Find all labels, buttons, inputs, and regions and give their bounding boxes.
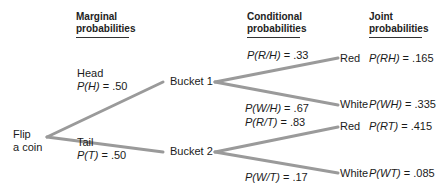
tail-probability: P(T) = .50 bbox=[77, 149, 126, 162]
branch-b2-red bbox=[215, 127, 338, 152]
root-label-line1: Flip bbox=[13, 128, 42, 141]
joint-prob-rh: P(RH) = .165 bbox=[369, 52, 434, 65]
header-marginal-line1: Marginal bbox=[76, 11, 135, 23]
head-label: Head bbox=[77, 67, 103, 80]
header-joint: Joint probabilities bbox=[369, 11, 428, 35]
branch-b2-white bbox=[215, 152, 338, 173]
header-joint-underline bbox=[369, 37, 422, 38]
root-label-line2: a coin bbox=[13, 141, 42, 154]
tail-prob-expr: P(T) bbox=[77, 149, 98, 161]
joint-rh-expr: P(RH) bbox=[369, 52, 400, 64]
header-marginal-underline bbox=[76, 37, 129, 38]
header-joint-line2: probabilities bbox=[369, 23, 428, 35]
cond-w-h-expr: P(W/H) bbox=[245, 102, 281, 114]
joint-wt-value: .085 bbox=[413, 167, 434, 179]
header-marginal: Marginal probabilities bbox=[76, 11, 135, 35]
bucket-2-node: Bucket 2 bbox=[170, 145, 213, 158]
header-joint-line1: Joint bbox=[369, 11, 428, 23]
joint-prob-rt: P(RT) = .415 bbox=[369, 120, 432, 133]
joint-wh-value: .335 bbox=[415, 98, 436, 110]
header-conditional-line1: Conditional bbox=[247, 11, 306, 23]
header-marginal-line2: probabilities bbox=[76, 23, 135, 35]
bucket-1-node: Bucket 1 bbox=[170, 75, 213, 88]
joint-wh-expr: P(WH) bbox=[369, 98, 402, 110]
tail-prob-value: .50 bbox=[111, 149, 126, 161]
cond-w-t-value: .17 bbox=[292, 171, 307, 183]
joint-rt-expr: P(RT) bbox=[369, 120, 398, 132]
joint-wt-expr: P(WT) bbox=[369, 167, 401, 179]
cond-w-h-value: .67 bbox=[294, 102, 309, 114]
cond-r-t-value: .83 bbox=[290, 116, 305, 128]
cond-w-t-expr: P(W/T) bbox=[245, 171, 280, 183]
cond-prob-r-given-t: P(R/T) = .83 bbox=[245, 116, 305, 129]
joint-prob-wh: P(WH) = .335 bbox=[369, 98, 436, 111]
outcome-red-heads: Red bbox=[340, 52, 360, 65]
joint-prob-wt: P(WT) = .085 bbox=[369, 167, 435, 180]
cond-r-h-value: .33 bbox=[293, 49, 308, 61]
cond-prob-w-given-t: P(W/T) = .17 bbox=[245, 171, 308, 184]
joint-rh-value: .165 bbox=[412, 52, 433, 64]
cond-prob-r-given-h: P(R/H) = .33 bbox=[247, 49, 308, 62]
head-prob-value: .50 bbox=[112, 80, 127, 92]
root-node-label: Flip a coin bbox=[13, 128, 42, 154]
cond-r-h-expr: P(R/H) bbox=[247, 49, 281, 61]
outcome-red-tails: Red bbox=[340, 120, 360, 133]
outcome-white-heads: White bbox=[340, 98, 368, 111]
header-conditional-underline bbox=[247, 37, 300, 38]
outcome-white-tails: White bbox=[340, 167, 368, 180]
cond-prob-w-given-h: P(W/H) = .67 bbox=[245, 102, 309, 115]
tail-label: Tail bbox=[77, 136, 94, 149]
header-conditional: Conditional probabilities bbox=[247, 11, 306, 35]
head-probability: P(H) = .50 bbox=[77, 80, 127, 93]
head-prob-expr: P(H) bbox=[77, 80, 100, 92]
header-conditional-line2: probabilities bbox=[247, 23, 306, 35]
cond-r-t-expr: P(R/T) bbox=[245, 116, 277, 128]
joint-rt-value: .415 bbox=[411, 120, 432, 132]
